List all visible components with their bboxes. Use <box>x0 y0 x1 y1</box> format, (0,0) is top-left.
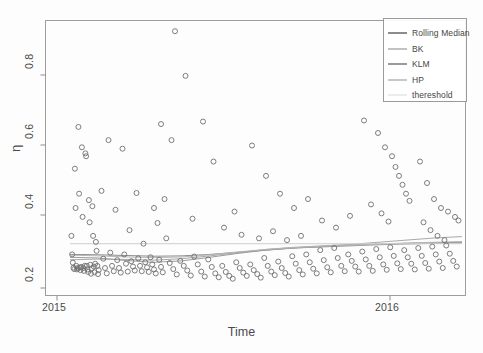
data-point <box>122 252 127 257</box>
legend-item-hp[interactable]: HP <box>388 72 424 88</box>
data-point <box>292 206 297 211</box>
x-axis-tick-2016: 2016 <box>375 301 399 313</box>
data-point <box>183 73 188 78</box>
y-axis-title: η <box>8 145 23 152</box>
legend-item-label: HP <box>412 75 424 85</box>
data-point <box>104 271 109 276</box>
data-point <box>199 269 204 274</box>
data-point <box>124 261 129 266</box>
legend-item-label: BK <box>412 44 424 54</box>
data-point <box>439 206 444 211</box>
data-point <box>164 236 169 241</box>
data-point <box>314 271 319 276</box>
data-point <box>211 159 216 164</box>
data-point <box>383 145 388 150</box>
data-point <box>321 258 326 263</box>
data-point <box>216 275 221 280</box>
y-axis-tick-0-6: 0.6 <box>23 124 35 139</box>
data-point <box>72 166 77 171</box>
data-point <box>264 173 269 178</box>
data-point <box>421 220 426 225</box>
data-point <box>276 259 281 264</box>
data-point <box>250 143 255 148</box>
data-point <box>325 265 330 270</box>
data-point <box>328 270 333 275</box>
data-point <box>73 206 78 211</box>
data-point <box>397 173 402 178</box>
data-point <box>416 246 421 251</box>
data-point <box>106 138 111 143</box>
chart-figure: 0.8 0.6 0.4 0.2 η 2015 2016 Time Rolling… <box>0 0 483 353</box>
data-point <box>174 272 179 277</box>
legend-item-thereshold[interactable]: thereshold <box>388 87 453 103</box>
data-point <box>339 263 344 268</box>
data-point <box>437 259 442 264</box>
legend-line-swatch <box>388 32 407 34</box>
legend-line-swatch <box>388 79 407 81</box>
data-point <box>398 267 403 272</box>
data-point <box>87 220 92 225</box>
data-point <box>77 191 82 196</box>
data-point <box>86 198 91 203</box>
data-point <box>362 118 367 123</box>
data-point <box>348 213 353 218</box>
data-point <box>190 216 195 221</box>
legend-item-klm[interactable]: KLM <box>388 56 430 72</box>
data-point <box>188 273 193 278</box>
data-point <box>440 266 445 271</box>
data-point <box>286 274 291 279</box>
data-point <box>69 233 74 238</box>
data-point <box>201 119 206 124</box>
data-point <box>342 269 347 274</box>
data-point <box>162 197 167 202</box>
data-point <box>386 219 391 224</box>
y-axis-tick-0-2: 0.2 <box>23 267 35 282</box>
data-point <box>423 261 428 266</box>
data-point <box>108 250 113 255</box>
legend-item-bk[interactable]: BK <box>388 41 424 57</box>
legend-item-rolling-median[interactable]: Rolling Median <box>388 25 470 41</box>
data-point <box>390 154 395 159</box>
legend-line-swatch <box>388 94 407 96</box>
data-point <box>118 270 123 275</box>
data-point <box>257 236 262 241</box>
data-point <box>300 272 305 277</box>
y-axis-tick-0-4: 0.4 <box>23 194 35 209</box>
data-point <box>405 255 410 260</box>
data-point <box>234 260 239 265</box>
data-point <box>318 248 323 253</box>
x-axis-tick-2015: 2015 <box>42 301 66 313</box>
legend-item-label: Rolling Median <box>412 28 470 38</box>
data-point <box>379 211 384 216</box>
data-point <box>391 253 396 258</box>
data-point <box>374 247 379 252</box>
data-point <box>232 209 237 214</box>
data-point <box>279 266 284 271</box>
data-point <box>271 229 276 234</box>
data-point <box>456 218 461 223</box>
legend-item-label: KLM <box>412 59 430 69</box>
data-point <box>297 268 302 273</box>
data-point <box>407 198 412 203</box>
data-point <box>367 263 372 268</box>
data-point <box>94 248 99 253</box>
data-point <box>195 262 200 267</box>
data-point <box>418 159 423 164</box>
data-point <box>103 266 108 271</box>
data-point <box>349 258 354 263</box>
data-point <box>150 262 155 267</box>
data-point <box>265 263 270 268</box>
data-point <box>209 264 214 269</box>
data-point <box>377 255 382 260</box>
data-point <box>152 206 157 211</box>
data-point <box>139 269 144 274</box>
data-point <box>432 197 437 202</box>
data-point <box>230 276 235 281</box>
data-point <box>244 273 249 278</box>
data-point <box>113 207 118 212</box>
data-point <box>428 228 433 233</box>
data-point <box>220 263 225 268</box>
chart-legend: Rolling MedianBKKLMHPthereshold <box>383 18 467 102</box>
data-point <box>80 214 85 219</box>
data-point <box>400 182 405 187</box>
